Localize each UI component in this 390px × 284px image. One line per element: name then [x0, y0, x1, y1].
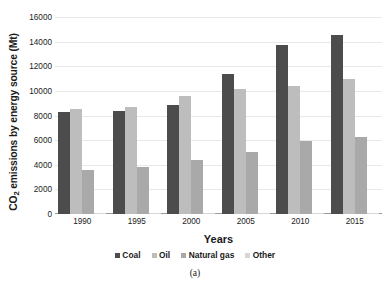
y-axis-title: CO2 emissions by energy source (Mt) [4, 6, 24, 238]
legend-label: Other [253, 250, 275, 260]
x-axis-tick-label: 2010 [291, 216, 309, 228]
legend-swatch-other-icon [245, 253, 250, 258]
chart-figure: CO2 emissions by energy source (Mt) 0200… [0, 0, 390, 284]
bar-other-2005[interactable] [258, 213, 270, 214]
bar-other-2010[interactable] [312, 213, 324, 214]
bar-group [273, 17, 328, 214]
bar-coal-2005[interactable] [222, 74, 234, 214]
figure-caption: (a) [0, 266, 390, 279]
legend-swatch-coal-icon [115, 253, 120, 258]
x-axis-tick-label: 2015 [346, 216, 364, 228]
bar-other-2015[interactable] [367, 213, 379, 214]
y-axis-title-subscript: 2 [12, 192, 21, 196]
y-axis-tick-labels: 0200040006000800010000120001400016000 [22, 12, 52, 214]
bar-other-1995[interactable] [149, 213, 161, 214]
bar-naturalgas-2000[interactable] [191, 160, 203, 214]
bar-coal-2015[interactable] [331, 35, 343, 214]
x-axis-tick-label: 2000 [182, 216, 200, 228]
bar-other-1990[interactable] [94, 213, 106, 214]
y-axis-tick-label: 10000 [22, 86, 52, 95]
legend-label: Natural gas [189, 250, 235, 260]
legend-item-naturalgas[interactable]: Natural gas [181, 250, 234, 260]
bar-coal-1990[interactable] [58, 112, 70, 214]
y-axis-tick-label: 16000 [22, 13, 52, 22]
chart-legend: CoalOilNatural gasOther [0, 250, 390, 260]
legend-swatch-oil-icon [152, 253, 157, 258]
y-axis-tick-label: 12000 [22, 62, 52, 71]
legend-swatch-naturalgas-icon [181, 253, 186, 258]
bar-coal-2010[interactable] [276, 45, 288, 214]
x-axis-title: Years [55, 232, 382, 246]
bar-oil-2015[interactable] [343, 79, 355, 214]
legend-item-oil[interactable]: Oil [152, 250, 171, 260]
y-axis-tick-label: 14000 [22, 37, 52, 46]
bar-oil-2005[interactable] [234, 89, 246, 214]
bar-group [219, 17, 274, 214]
legend-item-other[interactable]: Other [245, 250, 275, 260]
plot-area [55, 17, 382, 214]
bar-group [110, 17, 165, 214]
y-axis-tick-label: 8000 [22, 111, 52, 120]
bar-coal-1995[interactable] [113, 111, 125, 214]
legend-label: Oil [159, 250, 170, 260]
bar-oil-2010[interactable] [288, 86, 300, 214]
y-axis-tick-label: 2000 [22, 185, 52, 194]
bar-group [55, 17, 110, 214]
y-axis-tick-label: 0 [22, 210, 52, 219]
bars-layer [55, 17, 382, 214]
x-axis-tick-label: 2005 [237, 216, 255, 228]
bar-naturalgas-2005[interactable] [246, 152, 258, 214]
bar-other-2000[interactable] [203, 213, 215, 214]
bar-oil-1995[interactable] [125, 107, 137, 214]
x-axis-tick-labels: 199019952000200520102015 [55, 216, 382, 230]
bar-naturalgas-1990[interactable] [82, 170, 94, 214]
bar-oil-1990[interactable] [70, 109, 82, 214]
x-axis-tick-label: 1990 [73, 216, 91, 228]
y-axis-title-pre: CO [8, 196, 19, 211]
bar-oil-2000[interactable] [179, 96, 191, 214]
legend-label: Coal [122, 250, 140, 260]
bar-coal-2000[interactable] [167, 105, 179, 214]
bar-naturalgas-1995[interactable] [137, 167, 149, 214]
y-axis-tick-label: 4000 [22, 160, 52, 169]
bar-group [164, 17, 219, 214]
x-axis-tick-label: 1995 [128, 216, 146, 228]
y-axis-title-post: emissions by energy source (Mt) [8, 33, 19, 191]
bar-naturalgas-2015[interactable] [355, 137, 367, 214]
bar-group [328, 17, 383, 214]
y-axis-tick-label: 6000 [22, 136, 52, 145]
bar-naturalgas-2010[interactable] [300, 141, 312, 214]
legend-item-coal[interactable]: Coal [115, 250, 141, 260]
